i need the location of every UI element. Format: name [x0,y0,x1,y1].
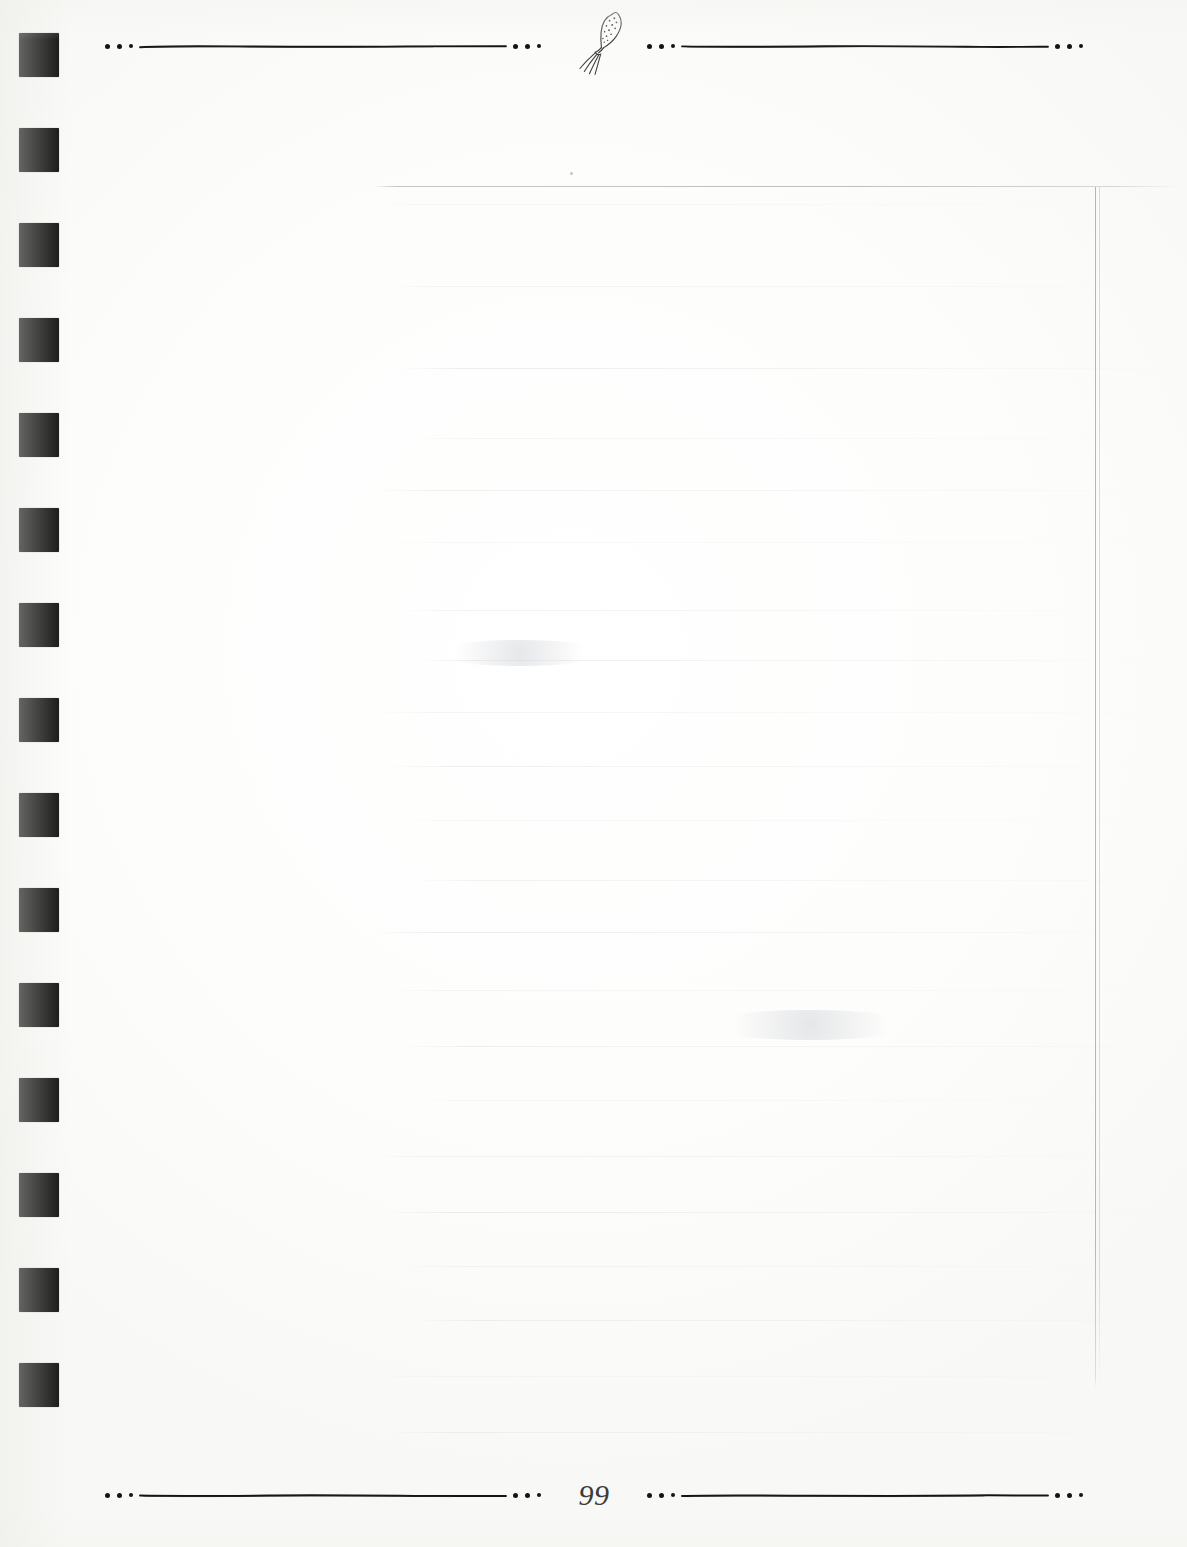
ghost-line [388,286,1152,287]
punch-square [19,33,59,77]
punch-square [19,128,59,172]
ghost-line [416,438,1134,439]
ghost-line [374,932,1134,933]
ink-rule-segment [140,43,506,50]
dot-cluster-icon [1048,44,1090,49]
content-frame-right-rule [1095,187,1096,1388]
dot-cluster-icon [640,44,682,49]
ink-speck [570,172,573,175]
ghost-line [388,766,1134,767]
dot-cluster-icon [506,1493,548,1498]
ghost-line [388,1432,1134,1433]
bottom-border-rule: 99 [98,1482,1090,1508]
punch-square [19,698,59,742]
dot-cluster-icon [506,44,548,49]
ghost-line [374,204,1134,205]
punch-square [19,603,59,647]
punch-square [19,1173,59,1217]
punch-square [19,888,59,932]
ghost-line [374,490,1152,491]
ghost-line [374,712,1170,713]
punch-square [19,793,59,837]
dot-cluster-icon [1048,1493,1090,1498]
punch-square [19,318,59,362]
paper-texture [0,0,1187,1547]
punch-square [19,983,59,1027]
dot-cluster-icon [98,1493,140,1498]
ink-rule-segment [682,43,1048,50]
ghost-line [374,1156,1152,1157]
ghost-line [416,1100,1134,1101]
paper-smudge [700,1010,920,1040]
dot-cluster-icon [640,1493,682,1498]
page-number-slot: 99 [548,1480,640,1510]
ink-rule-segment [682,1492,1048,1499]
ghost-line [402,1046,1170,1047]
scanned-cookbook-page: 99 [0,0,1187,1547]
ink-rule-segment [140,1492,506,1499]
punch-square [19,508,59,552]
dot-cluster-icon [98,44,140,49]
content-frame-top-rule [373,186,1180,187]
ghost-line [402,1266,1134,1267]
ghost-line [416,1320,1152,1321]
punch-square [19,413,59,457]
page-number: 99 [579,1480,610,1510]
paper-smudge [430,640,610,666]
ghost-line [402,610,1134,611]
ghost-line [402,368,1170,369]
scan-edge-shading [0,0,1187,1547]
ghost-line [388,1212,1170,1213]
ghost-line [416,880,1170,881]
ghost-line [374,1376,1170,1377]
ghost-line [402,820,1152,821]
content-frame-right-rule-inner [1099,187,1100,1388]
ghost-ruled-lines [374,190,1174,1480]
punch-square [19,1268,59,1312]
punch-square [19,1363,59,1407]
punch-square [19,223,59,267]
binding-punch-column [0,0,80,1547]
ghost-line [388,990,1152,991]
punch-square [19,1078,59,1122]
ghost-line [388,542,1170,543]
fork-icon [573,6,633,84]
